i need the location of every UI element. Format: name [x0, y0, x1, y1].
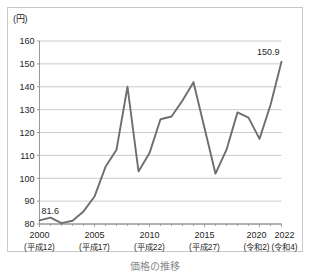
- y-tick-label: 160: [19, 36, 34, 46]
- x-axis-tick-labels: 2000(平成12)2005(平成17)2010(平成22)2015(平成27)…: [24, 230, 298, 252]
- y-tick-label: 100: [19, 174, 34, 184]
- y-tick-label: 140: [19, 82, 34, 92]
- x-tick-label-year: 2015: [194, 230, 214, 240]
- x-tick-label-era: (平成17): [79, 242, 110, 252]
- x-tick-label-year: 2005: [84, 230, 104, 240]
- x-tick-label-year: 2020: [246, 230, 266, 240]
- caption-label: 価格の推移: [130, 260, 180, 272]
- y-tick-label: 110: [20, 151, 34, 161]
- x-tick-label-era: (令和4): [271, 242, 297, 252]
- y-tick-label: 80: [24, 219, 34, 229]
- data-series-group: [40, 62, 282, 223]
- y-axis-tick-labels: 1601501401301201101009080: [19, 36, 39, 229]
- figure-container: (円) 1601501401301201101009080 2000(平成12)…: [0, 0, 311, 272]
- line-chart-plot: 1601501401301201101009080 2000(平成12)2005…: [0, 0, 311, 272]
- y-tick-label: 130: [19, 105, 34, 115]
- x-tick-label-era: (平成27): [189, 242, 220, 252]
- data-point-label: 81.6: [42, 206, 60, 216]
- x-tick-label-era: (平成22): [134, 242, 165, 252]
- x-tick-label-era: (平成12): [24, 242, 55, 252]
- x-tick-label-year: 2000: [29, 230, 49, 240]
- y-tick-label: 150: [19, 59, 34, 69]
- y-tick-label: 120: [19, 128, 34, 138]
- data-point-label: 150.9: [257, 47, 280, 57]
- x-tick-label-era: (令和2): [243, 242, 269, 252]
- y-tick-label: 90: [24, 196, 34, 206]
- x-axis-tick-marks: [40, 224, 282, 227]
- data-point-annotations: 81.6150.9: [42, 47, 280, 217]
- gridlines-group: [40, 41, 282, 224]
- data-line-series: [40, 62, 282, 223]
- figure-caption: 価格の推移: [130, 260, 180, 272]
- x-tick-label-year: 2022: [274, 230, 294, 240]
- x-tick-label-year: 2010: [139, 230, 159, 240]
